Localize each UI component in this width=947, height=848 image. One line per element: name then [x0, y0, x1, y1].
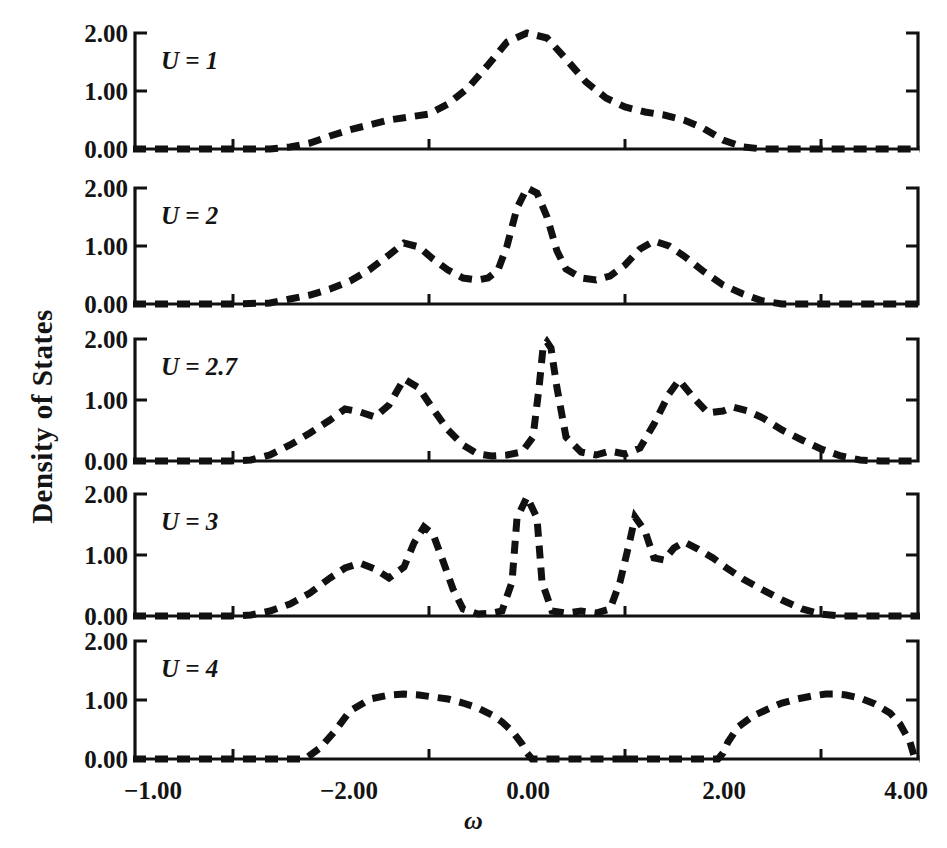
x-tick-label-2: 0.00 — [506, 777, 550, 805]
x-axis-title: ω — [0, 806, 947, 836]
y-tick-1: 1.00 — [50, 234, 128, 259]
panel-plot-area — [133, 339, 920, 461]
curve-u-1 — [133, 33, 920, 149]
x-tick-label-3: 2.00 — [702, 777, 746, 805]
axis-ticks — [135, 91, 947, 149]
y-tick-1: 1.00 — [50, 543, 128, 568]
y-tick-1: 1.00 — [50, 688, 128, 713]
panel-u-4: U = 4 — [133, 641, 920, 759]
panel-plot-area — [133, 33, 920, 149]
panel-plot-area — [133, 494, 920, 616]
figure-density-of-states: Density of States U = 1 2.00 1.00 0.00 — [0, 0, 947, 848]
y-tick-2: 2.00 — [50, 482, 128, 507]
panel-label-u-4: U = 4 — [161, 655, 218, 683]
y-tick-1: 1.00 — [50, 388, 128, 413]
axis-ticks — [135, 246, 918, 304]
axis-ticks — [135, 400, 918, 461]
y-tick-2: 2.00 — [50, 176, 128, 201]
panel-u-3: U = 3 — [133, 494, 920, 616]
y-ticks-panel-5: 2.00 1.00 0.00 — [48, 641, 128, 759]
axis-frame — [135, 494, 918, 616]
axis-frame — [135, 188, 918, 304]
y-tick-2: 2.00 — [50, 629, 128, 654]
curve-u-2-7 — [133, 342, 920, 461]
x-tick-label-4: 4.00 — [884, 777, 928, 805]
curve-u-4-upper-band — [625, 694, 920, 759]
panel-label-u-1: U = 1 — [161, 47, 218, 75]
panel-u-2-7: U = 2.7 — [133, 339, 920, 461]
y-ticks-panel-1: 2.00 1.00 0.00 — [48, 33, 128, 149]
axis-frame — [135, 33, 918, 149]
axis-ticks — [135, 555, 918, 616]
y-tick-2: 2.00 — [50, 327, 128, 352]
y-ticks-panel-2: 2.00 1.00 0.00 — [48, 188, 128, 304]
y-tick-2: 2.00 — [50, 21, 128, 46]
x-tick-label-0: −1.00 — [124, 777, 182, 805]
y-ticks-panel-4: 2.00 1.00 0.00 — [48, 494, 128, 616]
y-tick-0: 0.00 — [50, 449, 128, 474]
x-tick-label-1: −2.00 — [320, 777, 378, 805]
y-tick-1: 1.00 — [50, 79, 128, 104]
panel-label-u-2-7: U = 2.7 — [161, 353, 237, 381]
panel-plot-area — [133, 188, 920, 304]
panel-u-1: U = 1 — [133, 33, 920, 149]
y-tick-0: 0.00 — [50, 604, 128, 629]
curve-u-3 — [133, 497, 920, 616]
y-tick-0: 0.00 — [50, 137, 128, 162]
panel-plot-area — [133, 641, 920, 759]
curve-u-4-lower-band — [133, 694, 625, 759]
axis-ticks — [135, 700, 947, 759]
y-ticks-panel-3: 2.00 1.00 0.00 — [48, 339, 128, 461]
panel-label-u-3: U = 3 — [161, 508, 218, 536]
curve-u-2 — [133, 188, 920, 304]
y-tick-0: 0.00 — [50, 747, 128, 772]
panel-u-2: U = 2 — [133, 188, 920, 304]
panel-label-u-2: U = 2 — [161, 202, 218, 230]
y-tick-0: 0.00 — [50, 292, 128, 317]
